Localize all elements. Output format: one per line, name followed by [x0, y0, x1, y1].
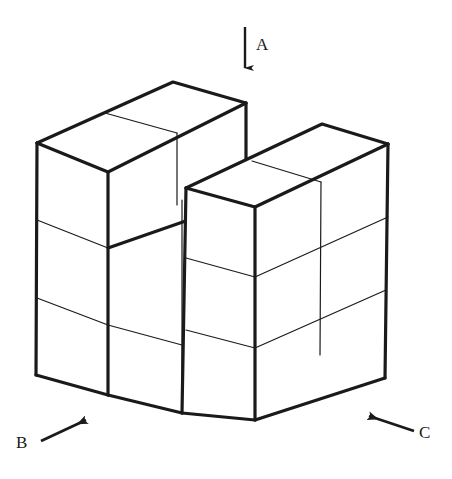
arrow-c-label: C	[419, 423, 430, 442]
isometric-block-diagram: A B C	[0, 0, 452, 479]
left-block-back-left-vertical	[36, 143, 37, 375]
left-block-left-face	[36, 143, 108, 395]
right-block-front-left-face	[182, 188, 255, 420]
figure-container: A B C	[0, 0, 452, 479]
arrow-a-label: A	[256, 35, 269, 54]
arrow-b-label: B	[16, 433, 27, 452]
